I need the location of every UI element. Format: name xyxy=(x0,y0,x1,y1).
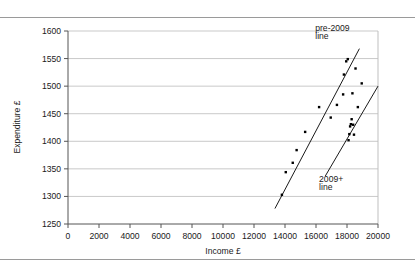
data-point xyxy=(353,133,355,135)
data-point xyxy=(318,106,320,108)
data-point xyxy=(361,82,363,84)
data-point xyxy=(349,125,351,127)
data-point xyxy=(354,67,356,69)
y-tick-label: 1550 xyxy=(42,54,61,64)
y-tick-label: 1300 xyxy=(42,191,61,201)
data-point xyxy=(285,171,287,173)
x-tick-label: 14000 xyxy=(273,231,297,241)
chart-figure: 12501300135014001450150015501600 0200040… xyxy=(0,0,415,271)
data-point xyxy=(350,123,352,125)
chart-annotation: line xyxy=(319,182,333,192)
y-axis-tick-labels: 12501300135014001450150015501600 xyxy=(42,26,61,229)
x-tick-label: 18000 xyxy=(335,231,359,241)
x-tick-label: 2000 xyxy=(89,231,108,241)
y-axis-ticks xyxy=(64,31,68,224)
x-tick-label: 20000 xyxy=(366,231,390,241)
y-tick-label: 1400 xyxy=(42,136,61,146)
data-point xyxy=(281,194,283,196)
data-point xyxy=(347,58,349,60)
x-axis-tick-labels: 0200040006000800010000120001400016000180… xyxy=(66,231,391,241)
x-axis-ticks xyxy=(68,224,378,228)
x-tick-label: 8000 xyxy=(182,231,201,241)
scatter-chart: 12501300135014001450150015501600 0200040… xyxy=(0,0,415,271)
y-tick-label: 1500 xyxy=(42,81,61,91)
data-point xyxy=(350,118,352,120)
x-tick-label: 6000 xyxy=(151,231,170,241)
y-tick-label: 1450 xyxy=(42,109,61,119)
data-point xyxy=(336,104,338,106)
y-tick-label: 1350 xyxy=(42,164,61,174)
x-tick-label: 16000 xyxy=(304,231,328,241)
y-axis-title: Expenditure £ xyxy=(12,100,22,153)
data-point xyxy=(304,131,306,133)
data-point xyxy=(345,60,347,62)
data-point xyxy=(342,93,344,95)
data-point xyxy=(295,149,297,151)
plot-area-background xyxy=(68,31,378,224)
x-tick-label: 12000 xyxy=(242,231,266,241)
x-tick-label: 10000 xyxy=(211,231,235,241)
data-point xyxy=(330,116,332,118)
data-point xyxy=(351,92,353,94)
x-tick-label: 4000 xyxy=(120,231,139,241)
y-tick-label: 1600 xyxy=(42,26,61,36)
x-axis-title: Income £ xyxy=(205,246,241,256)
data-point xyxy=(292,162,294,164)
x-tick-label: 0 xyxy=(66,231,71,241)
data-point xyxy=(352,124,354,126)
data-point xyxy=(343,73,345,75)
chart-annotation: line xyxy=(315,31,329,41)
y-tick-label: 1250 xyxy=(42,219,61,229)
data-point xyxy=(348,133,350,135)
data-point xyxy=(357,106,359,108)
data-point xyxy=(347,139,349,141)
